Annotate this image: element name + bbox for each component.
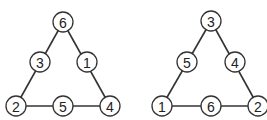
svg-text:1: 1 [83,55,91,71]
left-node-mid-right: 1 [77,52,97,72]
svg-text:6: 6 [59,15,67,31]
left-node-bottom-mid: 5 [53,96,73,116]
right-node-bottom-right: 2 [248,96,267,116]
left-node-top: 6 [53,12,73,32]
svg-text:2: 2 [254,99,262,115]
right-node-bottom-left: 1 [152,96,172,116]
right-node-bottom-mid: 6 [201,96,221,116]
svg-text:3: 3 [36,55,44,71]
left-node-mid-left: 3 [30,52,50,72]
svg-text:2: 2 [12,99,20,115]
svg-text:6: 6 [207,99,215,115]
svg-text:1: 1 [158,99,166,115]
left-node-bottom-right: 4 [100,96,120,116]
right-node-top: 3 [201,11,221,31]
right-node-mid-right: 4 [225,52,245,72]
svg-text:3: 3 [207,14,215,30]
svg-text:5: 5 [183,55,191,71]
left-node-bottom-left: 2 [6,96,26,116]
right-node-mid-left: 5 [177,52,197,72]
svg-text:4: 4 [106,99,114,115]
svg-text:4: 4 [231,55,239,71]
svg-text:5: 5 [59,99,67,115]
magic-triangle-diagram: 6 3 1 2 5 4 3 5 4 1 6 2 [0,0,267,120]
